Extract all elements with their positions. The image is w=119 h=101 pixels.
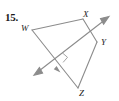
right-angle-square — [62, 53, 67, 63]
tick-arrowhead — [54, 66, 61, 73]
vertex-label-x: X — [83, 10, 89, 19]
vertex-label-w: W — [21, 24, 29, 33]
geometry-figure: 15. W X Y Z — [0, 0, 119, 101]
side-yz — [78, 42, 97, 88]
vertex-label-z: Z — [79, 89, 84, 98]
side-wx — [32, 19, 83, 30]
quadrilateral-wxyz — [32, 19, 97, 88]
right-angle-mark — [62, 53, 67, 63]
arrowhead-upper-right — [101, 17, 110, 25]
vertex-label-y: Y — [101, 38, 106, 47]
side-xy — [83, 19, 97, 42]
single-tick-arrow-WZ — [54, 66, 61, 73]
diagram-canvas — [0, 0, 119, 101]
